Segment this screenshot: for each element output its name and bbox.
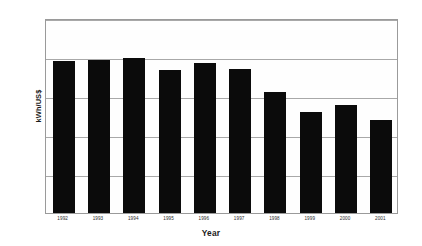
x-tick-label: 1998 [257, 216, 291, 221]
x-axis-title: Year [0, 228, 422, 238]
bar [123, 58, 145, 213]
x-tick-label: 1996 [187, 216, 221, 221]
bar-chart: kWh/US$ 0.00.51.01.52.02.5 1992199319941… [0, 0, 422, 246]
x-tick-label: 2000 [328, 216, 362, 221]
bar [194, 63, 216, 213]
bars-layer [46, 20, 397, 213]
plot-area [45, 19, 398, 214]
bar [53, 61, 75, 213]
bar [300, 112, 322, 213]
bar [264, 92, 286, 213]
y-axis-tick-labels: 0.00.51.01.52.02.5 [0, 0, 42, 246]
x-tick-label: 1994 [116, 216, 150, 221]
bar [229, 69, 251, 213]
x-tick-label: 1995 [152, 216, 186, 221]
bar [370, 120, 392, 213]
bar [335, 105, 357, 213]
bar [88, 60, 110, 213]
x-tick-label: 1999 [293, 216, 327, 221]
x-axis-tick-labels: 1992199319941995199619971998199920002001 [45, 216, 398, 228]
x-tick-label: 1993 [81, 216, 115, 221]
x-tick-label: 2001 [363, 216, 397, 221]
x-tick-label: 1997 [222, 216, 256, 221]
bar [159, 70, 181, 213]
x-tick-label: 1992 [46, 216, 80, 221]
